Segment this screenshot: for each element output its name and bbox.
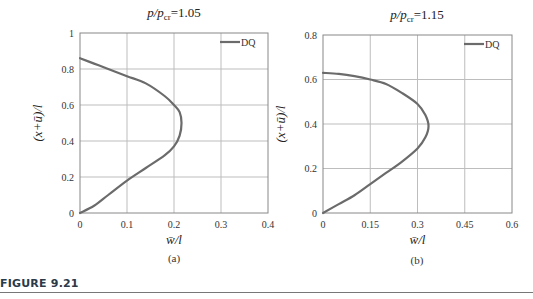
legend: DQ (220, 37, 256, 48)
legend-label: DQ (241, 37, 256, 48)
grid-lines (323, 35, 512, 213)
y-tick-label: 0 (312, 208, 317, 219)
y-tick-label: 0.4 (62, 136, 75, 147)
chart-panel-a: 00.10.20.30.400.20.40.60.81p/pcr=1.05w̄/… (30, 5, 274, 265)
x-tick-label: 0 (78, 219, 83, 230)
caption-rule (0, 292, 533, 293)
figure-canvas: 00.10.20.30.400.20.40.60.81p/pcr=1.05w̄/… (0, 0, 533, 299)
x-tick-label: 0.6 (506, 219, 519, 230)
series-line-dq (323, 73, 429, 213)
x-tick-label: 0.15 (362, 219, 380, 230)
x-tick-label: 0.1 (121, 219, 134, 230)
y-tick-label: 1 (69, 28, 74, 39)
x-tick-label: 0.3 (215, 219, 228, 230)
y-tick-label: 0.2 (305, 163, 318, 174)
y-tick-label: 0 (69, 208, 74, 219)
legend: DQ (464, 39, 500, 50)
y-tick-label: 0.6 (305, 74, 318, 85)
x-tick-label: 0.4 (262, 219, 275, 230)
x-axis-label: w̄/l (410, 232, 426, 247)
x-tick-label: 0 (321, 219, 326, 230)
y-axis-label: (x+ū)/l (273, 105, 288, 142)
legend-label: DQ (485, 39, 500, 50)
y-tick-label: 0.4 (305, 119, 318, 130)
chart-panel-b: 00.150.30.450.600.20.40.60.8p/pcr=1.15w̄… (273, 7, 518, 267)
chart-title: p/pcr=1.15 (389, 7, 444, 24)
chart-title: p/pcr=1.05 (146, 5, 201, 22)
y-tick-label: 0.8 (305, 30, 318, 41)
grid-lines (80, 33, 268, 213)
x-tick-label: 0.45 (456, 219, 474, 230)
x-tick-label: 0.3 (411, 219, 424, 230)
figure-caption: FIGURE 9.21 (0, 277, 79, 290)
x-axis-label: w̄/l (166, 232, 182, 247)
panel-label: (b) (411, 254, 424, 267)
y-tick-label: 0.8 (62, 64, 75, 75)
series-line-dq (80, 58, 182, 213)
y-axis-label: (x+ū)/l (30, 104, 45, 141)
x-tick-label: 0.2 (168, 219, 181, 230)
y-tick-label: 0.6 (62, 100, 75, 111)
panel-label: (a) (168, 252, 181, 265)
y-tick-label: 0.2 (62, 172, 75, 183)
